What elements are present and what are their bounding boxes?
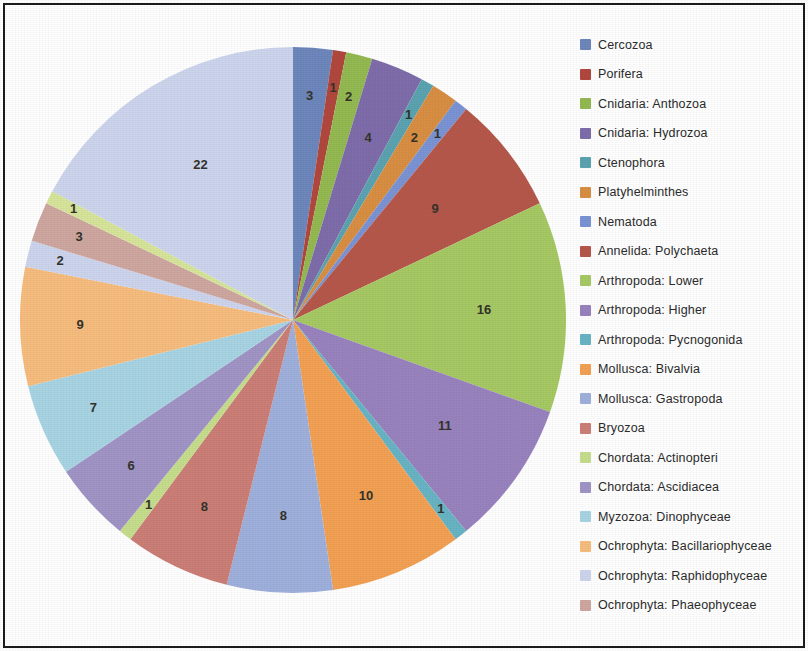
legend-item: Annelida: Polychaeta: [580, 237, 804, 267]
legend-item-label: Ochrophyta: Raphidophyceae: [598, 569, 767, 583]
legend-color-swatch: [580, 452, 591, 463]
legend-item-label: Mollusca: Bivalvia: [598, 362, 700, 376]
pie-data-label: 2: [56, 253, 63, 268]
legend-item-label: Arthropoda: Pycnogonida: [598, 333, 743, 347]
legend-item-label: Cnidaria: Hydrozoa: [598, 126, 708, 140]
legend-color-swatch: [580, 39, 591, 50]
legend-color-swatch: [580, 334, 591, 345]
pie-data-label: 1: [437, 501, 444, 516]
legend-item: Ochrophyta: Raphidophyceae: [580, 561, 804, 591]
legend-item-label: Nematoda: [598, 215, 657, 229]
pie-data-label: 22: [193, 157, 207, 172]
legend-color-swatch: [580, 600, 591, 611]
legend-color-swatch: [580, 511, 591, 522]
legend-item: Cnidaria: Hydrozoa: [580, 119, 804, 149]
legend-item: Porifera: [580, 60, 804, 90]
pie-data-label: 6: [128, 458, 135, 473]
legend-item-label: Myzozoa: Dinophyceae: [598, 510, 731, 524]
legend-color-swatch: [580, 128, 591, 139]
plot-area: 31241219161111088167923122: [8, 8, 568, 643]
pie-data-label: 11: [438, 418, 452, 433]
legend-color-swatch: [580, 423, 591, 434]
pie-data-label: 1: [70, 201, 77, 216]
legend-color-swatch: [580, 482, 591, 493]
legend-item-label: Bryozoa: [598, 421, 645, 435]
legend-item-label: Mollusca: Gastropoda: [598, 392, 723, 406]
legend-item: Mollusca: Gastropoda: [580, 384, 804, 414]
pie-data-label: 1: [145, 497, 152, 512]
legend-item: Myzozoa: Dinophyceae: [580, 502, 804, 532]
pie-data-label: 3: [306, 88, 313, 103]
legend-item: Ochrophyta: Phaeophyceae: [580, 591, 804, 621]
legend-item-label: Arthropoda: Higher: [598, 303, 706, 317]
legend-item: Chordata: Ascidiacea: [580, 473, 804, 503]
legend-item: Arthropoda: Pycnogonida: [580, 325, 804, 355]
legend-item: Nematoda: [580, 207, 804, 237]
legend-item-label: Cnidaria: Anthozoa: [598, 97, 706, 111]
legend-color-swatch: [580, 541, 591, 552]
legend-item-label: Chordata: Actinopteri: [598, 451, 718, 465]
pie-data-label: 3: [75, 229, 82, 244]
legend-item: Bryozoa: [580, 414, 804, 444]
legend-item-label: Annelida: Polychaeta: [598, 244, 718, 258]
legend-color-swatch: [580, 246, 591, 257]
pie-data-label: 9: [431, 201, 438, 216]
legend-color-swatch: [580, 305, 591, 316]
pie-svg: 31241219161111088167923122: [18, 45, 568, 595]
legend-item-label: Platyhelminthes: [598, 185, 689, 199]
legend-item: Cnidaria: Anthozoa: [580, 89, 804, 119]
legend-color-swatch: [580, 216, 591, 227]
legend-item-label: Ochrophyta: Bacillariophyceae: [598, 539, 772, 553]
legend-color-swatch: [580, 275, 591, 286]
legend-color-swatch: [580, 187, 591, 198]
pie-data-label: 1: [434, 126, 441, 141]
pie-data-label: 7: [90, 400, 97, 415]
legend-color-swatch: [580, 364, 591, 375]
legend-item: Chordata: Actinopteri: [580, 443, 804, 473]
legend-item: Mollusca: Bivalvia: [580, 355, 804, 385]
legend-item-label: Ochrophyta: Phaeophyceae: [598, 598, 757, 612]
legend-item: Arthropoda: Lower: [580, 266, 804, 296]
pie-data-label: 4: [365, 130, 373, 145]
legend-item: Cercozoa: [580, 30, 804, 60]
legend-item-label: Ctenophora: [598, 156, 665, 170]
pie-data-label: 10: [359, 488, 373, 503]
pie-chart-figure: 31241219161111088167923122 CercozoaPorif…: [0, 0, 808, 651]
pie-data-label: 16: [477, 302, 491, 317]
legend-color-swatch: [580, 69, 591, 80]
chart-legend: CercozoaPoriferaCnidaria: AnthozoaCnidar…: [580, 30, 804, 620]
pie-data-label: 1: [329, 80, 336, 95]
pie-slices-group: [20, 47, 566, 593]
legend-item-label: Arthropoda: Lower: [598, 274, 703, 288]
legend-color-swatch: [580, 393, 591, 404]
pie-data-label: 8: [280, 508, 287, 523]
legend-item-label: Porifera: [598, 67, 643, 81]
legend-item: Ctenophora: [580, 148, 804, 178]
pie-data-label: 9: [76, 317, 83, 332]
legend-color-swatch: [580, 570, 591, 581]
legend-color-swatch: [580, 157, 591, 168]
legend-item: Arthropoda: Higher: [580, 296, 804, 326]
pie-data-label: 1: [405, 107, 412, 122]
legend-item: Ochrophyta: Bacillariophyceae: [580, 532, 804, 562]
legend-item-label: Cercozoa: [598, 38, 653, 52]
pie-data-label: 8: [201, 499, 208, 514]
pie-data-label: 2: [345, 89, 352, 104]
pie-container: 31241219161111088167923122: [18, 45, 568, 595]
legend-item-label: Chordata: Ascidiacea: [598, 480, 719, 494]
pie-data-label: 2: [411, 130, 418, 145]
legend-color-swatch: [580, 98, 591, 109]
legend-item: Platyhelminthes: [580, 178, 804, 208]
